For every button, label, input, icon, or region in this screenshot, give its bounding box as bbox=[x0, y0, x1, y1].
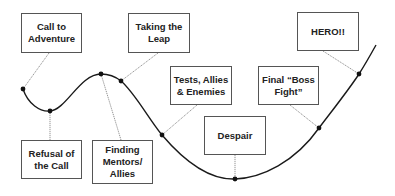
point-call bbox=[21, 87, 26, 92]
point-leap bbox=[119, 79, 124, 84]
stage-label: Despair bbox=[218, 130, 253, 142]
point-refusal bbox=[48, 109, 53, 114]
leader-line-mentors bbox=[101, 74, 121, 140]
stage-box-mentors: Finding Mentors/ Allies bbox=[92, 140, 153, 184]
leader-line-leap bbox=[121, 53, 158, 81]
stage-label: Finding Mentors/ Allies bbox=[103, 144, 143, 180]
stage-box-hero: HERO!! bbox=[297, 12, 359, 51]
leader-line-tests bbox=[162, 105, 197, 135]
leader-line-call bbox=[23, 53, 49, 89]
point-boss bbox=[317, 126, 322, 131]
stage-label: Tests, Allies & Enemies bbox=[174, 74, 228, 98]
stage-box-call: Call to Adventure bbox=[21, 13, 82, 53]
stage-box-boss: Final “Boss Fight” bbox=[258, 66, 319, 105]
stage-label: Call to Adventure bbox=[28, 21, 75, 45]
stage-box-refusal: Refusal of the Call bbox=[21, 140, 82, 179]
stage-label: Refusal of the Call bbox=[29, 148, 75, 172]
stage-label: HERO!! bbox=[311, 26, 345, 38]
stage-box-leap: Taking the Leap bbox=[128, 13, 190, 53]
stage-label: Final “Boss Fight” bbox=[262, 74, 315, 98]
stage-label: Taking the Leap bbox=[136, 21, 183, 45]
stage-box-despair: Despair bbox=[204, 116, 266, 155]
stage-box-tests: Tests, Allies & Enemies bbox=[170, 66, 232, 105]
point-despair bbox=[233, 177, 238, 182]
leader-line-boss bbox=[290, 105, 319, 128]
point-hero bbox=[357, 72, 362, 77]
point-mentors bbox=[99, 72, 104, 77]
leader-line-hero bbox=[323, 51, 359, 74]
point-tests bbox=[160, 133, 165, 138]
